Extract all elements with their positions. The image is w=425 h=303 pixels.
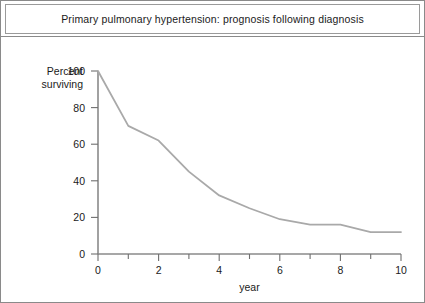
x-tick-label-6: 6 xyxy=(268,264,292,276)
x-tick-label-0: 0 xyxy=(86,264,110,276)
y-tick-label-40: 40 xyxy=(59,175,85,187)
x-axis-ticks xyxy=(98,254,401,261)
survival-curve-line xyxy=(98,71,401,232)
chart-title-box: Primary pulmonary hypertension: prognosi… xyxy=(5,4,420,34)
x-tick-label-2: 2 xyxy=(147,264,171,276)
figure-frame: Primary pulmonary hypertension: prognosi… xyxy=(0,0,425,303)
x-axis-label: year xyxy=(98,281,401,293)
y-tick-label-20: 20 xyxy=(59,211,85,223)
page-title: Primary pulmonary hypertension: prognosi… xyxy=(61,13,364,25)
y-tick-label-100: 100 xyxy=(59,65,85,77)
x-tick-label-10: 10 xyxy=(389,264,413,276)
x-tick-label-8: 8 xyxy=(328,264,352,276)
x-tick-label-4: 4 xyxy=(207,264,231,276)
axis-lines xyxy=(98,71,401,254)
y-axis-ticks xyxy=(91,71,98,254)
y-tick-label-80: 80 xyxy=(59,102,85,114)
y-tick-label-0: 0 xyxy=(59,248,85,260)
plot-area: Percent surviving xyxy=(1,37,425,303)
y-tick-label-60: 60 xyxy=(59,138,85,150)
